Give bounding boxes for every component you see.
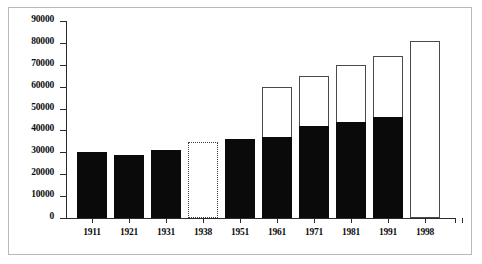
bar-1921: [114, 155, 144, 218]
bar-fill-1991: [373, 117, 403, 218]
y-axis-tick-mark: [60, 218, 66, 219]
bar-1961: [262, 87, 292, 218]
x-axis-end-tick: [455, 218, 456, 223]
bar-1971: [299, 76, 329, 218]
bar-1911: [77, 152, 107, 218]
y-axis-tick-label: 10000: [31, 189, 54, 199]
bar-1981: [336, 65, 366, 218]
bar-fill-1961: [262, 137, 292, 218]
y-axis-tick-mark: [60, 87, 66, 88]
bar-1998: [410, 41, 440, 218]
y-axis-tick-mark: [60, 43, 66, 44]
x-axis-tick-mark: [314, 218, 315, 223]
y-axis-tick-label: 90000: [31, 14, 54, 24]
x-axis-tick-label: 1998: [403, 227, 447, 237]
y-axis-tick-label: 50000: [31, 102, 54, 112]
x-axis-tick-mark: [388, 218, 389, 223]
bar-1931: [151, 150, 181, 218]
x-axis-tick-mark: [129, 218, 130, 223]
bar-1938: [188, 142, 218, 218]
bar-1951: [225, 139, 255, 218]
bar-fill-1981: [336, 122, 366, 218]
bar-1991: [373, 56, 403, 218]
y-axis-tick-mark: [60, 130, 66, 131]
y-axis-tick-mark: [60, 196, 66, 197]
x-axis-tick-mark: [166, 218, 167, 223]
x-axis-tick-mark: [425, 218, 426, 223]
x-axis-tick-mark: [92, 218, 93, 223]
y-axis-tick-mark: [60, 109, 66, 110]
y-axis-tick-label: 70000: [31, 58, 54, 68]
chart-figure: 0100002000030000400005000060000700008000…: [0, 0, 482, 264]
y-axis-tick-mark: [60, 174, 66, 175]
y-axis-tick-label: 0: [49, 211, 54, 221]
x-axis-tick-mark: [351, 218, 352, 223]
x-axis-extra-tick: [462, 218, 463, 223]
y-axis-tick-label: 30000: [31, 145, 54, 155]
x-axis-tick-mark: [240, 218, 241, 223]
y-axis-tick-label: 20000: [31, 167, 54, 177]
y-axis-line: [66, 21, 67, 219]
y-axis-tick-label: 60000: [31, 80, 54, 90]
x-axis-line: [66, 218, 456, 219]
y-axis-tick-label: 80000: [31, 36, 54, 46]
x-axis-tick-mark: [203, 218, 204, 223]
y-axis-tick-mark: [60, 65, 66, 66]
y-axis-tick-mark: [60, 152, 66, 153]
y-axis-tick-label: 40000: [31, 123, 54, 133]
y-axis-tick-mark: [60, 21, 66, 22]
x-axis-tick-mark: [277, 218, 278, 223]
bar-fill-1971: [299, 126, 329, 218]
